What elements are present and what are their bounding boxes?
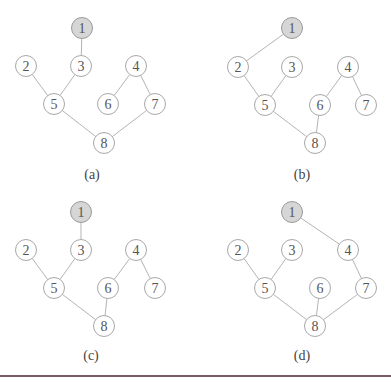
edge-5-8: [273, 111, 306, 136]
node-label: 1: [289, 21, 296, 36]
edge-3-5: [60, 259, 75, 280]
node-8: 8: [305, 133, 326, 154]
bottom-rule: [0, 375, 391, 377]
node-label: 3: [289, 243, 296, 258]
node-label: 6: [105, 281, 112, 296]
node-4: 4: [126, 56, 147, 77]
subfigure-label: (b): [294, 167, 311, 183]
node-label: 4: [345, 243, 352, 258]
edge-3-5: [60, 75, 75, 96]
node-1: 1: [282, 202, 303, 223]
node-label: 8: [312, 319, 319, 334]
edge-2-5: [32, 74, 48, 95]
node-label: 4: [345, 60, 352, 75]
subfigure-c: 12345678(c): [16, 202, 166, 364]
node-label: 3: [78, 59, 85, 74]
node-label: 8: [101, 136, 108, 151]
edge-1-4: [301, 218, 340, 244]
edge-2-5: [244, 259, 259, 280]
node-label: 3: [289, 60, 296, 75]
node-3: 3: [71, 240, 92, 261]
node-label: 5: [262, 281, 269, 296]
node-label: 1: [79, 21, 86, 36]
edge-5-8: [62, 294, 95, 319]
subfigure-label: (d): [294, 348, 311, 364]
node-label: 8: [312, 136, 319, 151]
node-label: 7: [152, 281, 159, 296]
edge-7-8: [112, 110, 146, 136]
edge-1-2: [247, 34, 284, 61]
subfigure-label: (a): [84, 167, 100, 183]
node-1: 1: [72, 18, 93, 39]
node-label: 2: [235, 60, 242, 75]
edge-4-7: [352, 76, 361, 95]
node-1: 1: [282, 18, 303, 39]
node-5: 5: [44, 278, 65, 299]
graph-diagram: 12345678(a) 12345678(b) 12345678(c) 1234…: [0, 0, 391, 382]
edge-4-7: [141, 75, 151, 94]
node-label: 3: [78, 243, 85, 258]
edge-6-8: [316, 115, 318, 132]
node-label: 5: [51, 281, 58, 296]
node-label: 2: [235, 243, 242, 258]
node-3: 3: [282, 57, 303, 78]
node-label: 5: [262, 98, 269, 113]
node-label: 1: [289, 205, 296, 220]
node-label: 1: [78, 205, 85, 220]
node-label: 7: [152, 97, 159, 112]
subfigure-label: (c): [83, 348, 99, 364]
node-3: 3: [71, 56, 92, 77]
node-6: 6: [98, 278, 119, 299]
edge-4-6: [326, 75, 342, 96]
edge-4-6: [114, 74, 130, 95]
node-label: 6: [317, 98, 324, 113]
subfigure-d: 12345678(d): [228, 202, 377, 364]
node-1: 1: [71, 202, 92, 223]
node-label: 5: [51, 97, 58, 112]
node-7: 7: [356, 95, 377, 116]
edge-4-6: [114, 258, 130, 279]
node-3: 3: [282, 240, 303, 261]
edge-5-8: [273, 294, 306, 319]
edge-2-5: [244, 76, 259, 97]
node-8: 8: [94, 316, 115, 337]
node-6: 6: [98, 94, 119, 115]
node-4: 4: [338, 57, 359, 78]
edge-4-7: [141, 259, 151, 278]
node-5: 5: [255, 278, 276, 299]
edge-7-8: [323, 294, 357, 319]
edge-6-8: [105, 298, 107, 315]
node-5: 5: [44, 94, 65, 115]
node-label: 2: [23, 59, 30, 74]
edge-3-5: [271, 259, 286, 280]
node-7: 7: [145, 278, 166, 299]
node-label: 7: [363, 281, 370, 296]
node-label: 4: [133, 243, 140, 258]
node-label: 2: [23, 243, 30, 258]
node-label: 7: [363, 98, 370, 113]
subfigure-b: 12345678(b): [228, 18, 377, 183]
edge-3-5: [271, 76, 286, 97]
node-8: 8: [305, 316, 326, 337]
edge-2-5: [32, 258, 48, 279]
node-6: 6: [310, 95, 331, 116]
node-label: 6: [105, 97, 112, 112]
node-5: 5: [255, 95, 276, 116]
node-2: 2: [228, 57, 249, 78]
node-label: 8: [101, 319, 108, 334]
node-2: 2: [16, 240, 37, 261]
node-7: 7: [145, 94, 166, 115]
subfigure-a: 12345678(a): [16, 18, 166, 183]
node-label: 6: [317, 281, 324, 296]
edge-4-7: [352, 259, 361, 278]
edge-5-8: [62, 110, 95, 136]
node-4: 4: [338, 240, 359, 261]
node-7: 7: [356, 278, 377, 299]
node-2: 2: [228, 240, 249, 261]
node-label: 4: [133, 59, 140, 74]
edge-6-8: [316, 298, 318, 315]
node-8: 8: [94, 133, 115, 154]
node-6: 6: [310, 278, 331, 299]
node-2: 2: [16, 56, 37, 77]
node-4: 4: [126, 240, 147, 261]
